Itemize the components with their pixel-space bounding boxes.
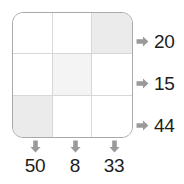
column-total-1: 8: [55, 140, 95, 175]
arrow-down-icon: [29, 140, 42, 153]
column-total-0: 50: [15, 140, 55, 175]
grid-cell-r2c1[interactable]: [53, 96, 93, 137]
arrow-right-icon: [136, 35, 149, 48]
row-total-label-1: 15: [154, 74, 175, 93]
grid-sum-puzzle: 20 15 44 50 8 33: [0, 0, 184, 184]
arrow-right-icon: [136, 77, 149, 90]
grid-cell-r2c0[interactable]: [13, 96, 53, 137]
row-total-2: 44: [136, 104, 175, 146]
column-total-label-1: 8: [70, 156, 80, 175]
puzzle-grid: [12, 12, 133, 138]
column-total-label-2: 33: [104, 156, 125, 175]
grid-cell-r1c1[interactable]: [53, 54, 93, 95]
grid-cell-r1c0[interactable]: [13, 54, 53, 95]
row-total-0: 20: [136, 20, 175, 62]
grid-cell-r1c2[interactable]: [92, 54, 132, 95]
row-total-1: 15: [136, 62, 175, 104]
arrow-down-icon: [69, 140, 82, 153]
column-total-label-0: 50: [25, 156, 46, 175]
row-total-label-2: 44: [154, 116, 175, 135]
column-total-2: 33: [94, 140, 134, 175]
grid-cell-r0c0[interactable]: [13, 13, 53, 54]
grid-cell-r0c2[interactable]: [92, 13, 132, 54]
arrow-right-icon: [136, 119, 149, 132]
grid-cell-r2c2[interactable]: [92, 96, 132, 137]
grid-cell-r0c1[interactable]: [53, 13, 93, 54]
arrow-down-icon: [108, 140, 121, 153]
row-total-label-0: 20: [154, 32, 175, 51]
